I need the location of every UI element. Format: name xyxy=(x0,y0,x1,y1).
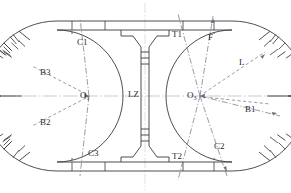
right-end-joints xyxy=(259,24,291,168)
label-partition-lz: LZ xyxy=(128,90,139,99)
label-t2: T2 xyxy=(172,152,182,161)
ring-segment-joints xyxy=(0,18,291,175)
ring-arc-joint-marks xyxy=(0,49,6,96)
label-b2: B2 xyxy=(40,118,51,127)
label-f: F xyxy=(208,33,213,42)
figure-canvas: O1 O3 LZ B3 B2 B1 C1 C3 C2 T1 T2 F L xyxy=(0,0,291,193)
label-b1: B1 xyxy=(245,105,256,114)
label-c3: C3 xyxy=(88,149,99,158)
label-center-left: O1 xyxy=(80,91,90,100)
label-c1: C1 xyxy=(77,38,88,47)
tunnel-cross-section-drawing xyxy=(0,0,291,193)
arc-joints-visible xyxy=(0,37,279,85)
label-center-right: O3 xyxy=(187,91,197,100)
label-l: L xyxy=(239,58,245,67)
label-t1: T1 xyxy=(172,30,182,39)
label-b3: B3 xyxy=(40,68,51,77)
label-c2: C2 xyxy=(214,142,225,151)
